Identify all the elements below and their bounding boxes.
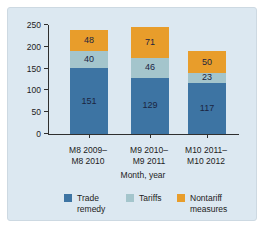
legend-swatch (177, 194, 185, 202)
value-label: 46 (145, 63, 155, 72)
y-axis-tick (44, 89, 48, 90)
y-axis-tick-label: 250 (15, 20, 41, 30)
legend-label: Trade remedy (77, 193, 114, 215)
stacked-bar: 1294671 (131, 27, 169, 134)
legend-label: Nontariff measures (190, 193, 239, 215)
value-label: 151 (81, 97, 96, 106)
legend-item: Nontariff measures (177, 193, 239, 215)
y-axis-tick (44, 24, 48, 25)
value-label: 48 (84, 36, 94, 45)
plot-area: 050100150200250151404812946711172350 (48, 25, 239, 135)
stacked-bar: 1172350 (188, 51, 226, 134)
y-axis-tick (44, 68, 48, 69)
bar-segment: 48 (70, 30, 108, 51)
stacked-bar-chart: 050100150200250151404812946711172350 M8 … (7, 7, 257, 221)
value-label: 40 (84, 55, 94, 64)
legend-item: Trade remedy (64, 193, 114, 215)
bar-segment: 46 (131, 58, 169, 78)
y-axis-tick-label: 100 (15, 85, 41, 95)
x-axis-tick (89, 135, 90, 138)
x-axis-tick (207, 135, 208, 138)
bar-segment: 117 (188, 83, 226, 134)
value-label: 50 (202, 58, 212, 67)
legend-item: Tariffs (126, 193, 176, 204)
legend-label: Tariffs (139, 193, 162, 204)
legend-swatch (64, 194, 72, 202)
bar-segment: 151 (70, 68, 108, 134)
legend-swatch (126, 194, 134, 202)
value-label: 117 (200, 104, 214, 113)
y-axis-tick (44, 111, 48, 112)
x-axis-title: Month, year (48, 170, 238, 180)
y-axis-tick (44, 133, 48, 134)
bar-segment: 129 (131, 78, 169, 134)
value-label: 71 (145, 38, 155, 47)
y-axis-tick-label: 150 (15, 64, 41, 74)
bar-segment: 71 (131, 27, 169, 58)
y-axis-tick (44, 46, 48, 47)
bar-segment: 40 (70, 51, 108, 68)
stacked-bar: 1514048 (70, 30, 108, 134)
y-axis-tick-label: 50 (15, 107, 41, 117)
value-label: 23 (202, 73, 212, 82)
y-axis-tick-label: 200 (15, 42, 41, 52)
x-category-label: M10 2011– M10 2012 (170, 145, 242, 167)
value-label: 129 (142, 101, 157, 110)
bar-segment: 23 (188, 73, 226, 83)
y-axis-tick-label: 0 (15, 129, 41, 139)
x-axis-tick (150, 135, 151, 138)
bar-segment: 50 (188, 51, 226, 73)
